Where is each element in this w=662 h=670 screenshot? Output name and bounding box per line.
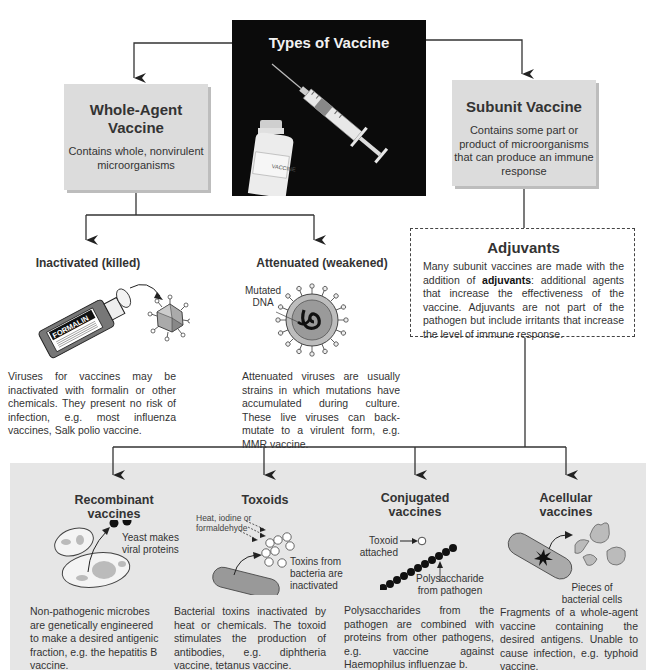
subunit-vaccine-box: Subunit Vaccine Contains some part or pr… (452, 80, 596, 186)
inactivated-description: Viruses for vaccines may be inactivated … (8, 370, 176, 438)
hero-image: VACCINE Types of Vaccine (232, 20, 426, 196)
polysaccharide-label: Polysaccharide from pathogen (410, 573, 490, 597)
formalin-bottle-virus-icon: FORMALIN (30, 272, 190, 362)
polysaccharide-label-line1: Polysaccharide (410, 573, 490, 585)
bacterial-fragments-icon (505, 515, 645, 585)
yeast-label-line1: Yeast makes (122, 532, 179, 544)
adjuvants-bold-term: adjuvants (482, 274, 531, 286)
attenuated-title: Attenuated (weakened) (252, 256, 392, 270)
conjugated-title-line2: vaccines (370, 505, 460, 519)
subunit-title: Subunit Vaccine (452, 98, 596, 116)
conjugated-description: Polysaccharides from the pathogen are co… (344, 604, 494, 670)
subunit-desc-line3: that can produce an immune (452, 151, 596, 165)
toxins-label-line3: inactivated (290, 580, 343, 592)
acellular-title-line1: Acellular (520, 491, 612, 505)
adjuvants-description: Many subunit vaccines are made with the … (423, 260, 624, 341)
whole-agent-title-line1: Whole-Agent (64, 101, 208, 119)
page-title: Types of Vaccine (232, 34, 426, 51)
conjugated-title: Conjugated vaccines (370, 491, 460, 519)
whole-agent-title-line2: Vaccine (64, 119, 208, 137)
subunit-desc-line2: product of microorganisms (452, 138, 596, 152)
toxins-label-line1: Toxins from (290, 556, 343, 568)
recombinant-title: Recombinant vaccines (58, 493, 170, 521)
subunit-desc-line1: Contains some part or (452, 124, 596, 138)
conjugated-title-line1: Conjugated (370, 491, 460, 505)
yeast-label-line2: viral proteins (122, 544, 179, 556)
toxoids-description: Bacterial toxins inactivated by heat or … (174, 605, 326, 670)
whole-agent-desc-line2: microorganisms (64, 159, 208, 173)
whole-agent-vaccine-box: Whole-Agent Vaccine Contains whole, nonv… (64, 84, 208, 190)
inactivated-title: Inactivated (killed) (28, 256, 148, 270)
bacterial-pieces-label-line2: bacterial cells (552, 594, 632, 606)
bacterial-pieces-label: Pieces of bacterial cells (552, 582, 632, 606)
attenuated-virus-icon (272, 280, 352, 360)
adjuvants-box: Adjuvants Many subunit vaccines are made… (410, 228, 635, 337)
subunit-desc-line4: response (452, 165, 596, 179)
toxoids-title: Toxoids (220, 493, 310, 507)
attenuated-description: Attenuated viruses are usually strains i… (242, 370, 400, 452)
recombinant-title-line1: Recombinant (58, 493, 170, 507)
recombinant-description: Non-pathogenic microbes are genetically … (30, 605, 164, 670)
acellular-description: Fragments of a whole-agent vaccine conta… (500, 606, 638, 670)
whole-agent-desc-line1: Contains whole, nonvirulent (64, 145, 208, 159)
adjuvants-title: Adjuvants (423, 239, 624, 256)
recombinant-title-line2: vaccines (58, 507, 170, 521)
bacterial-pieces-label-line1: Pieces of (552, 582, 632, 594)
yeast-label: Yeast makes viral proteins (122, 532, 179, 556)
toxins-label-line2: bacteria are (290, 568, 343, 580)
polysaccharide-label-line2: from pathogen (410, 585, 490, 597)
toxins-label: Toxins from bacteria are inactivated (290, 556, 343, 592)
